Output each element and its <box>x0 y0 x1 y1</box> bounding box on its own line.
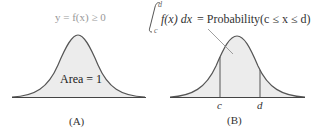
integral-lower-limit: c <box>154 26 158 35</box>
panel-a-top-label: y = f(x) ≥ 0 <box>55 11 106 23</box>
panel-b-caption: (B) <box>227 114 242 126</box>
curve-b-fill <box>170 36 305 97</box>
formula-integrand: f(x) dx <box>161 12 192 27</box>
integral-upper-limit: d <box>158 0 162 9</box>
panel-a-area-label: Area = 1 <box>60 72 102 87</box>
formula-rhs: = Probability(c ≤ x ≤ d) <box>197 12 311 27</box>
panel-a-caption: (A) <box>69 115 84 127</box>
tick-label-c: c <box>217 99 222 111</box>
panel-a-graph <box>12 35 146 98</box>
tick-label-d: d <box>257 99 263 111</box>
curve-a-fill <box>12 35 145 97</box>
